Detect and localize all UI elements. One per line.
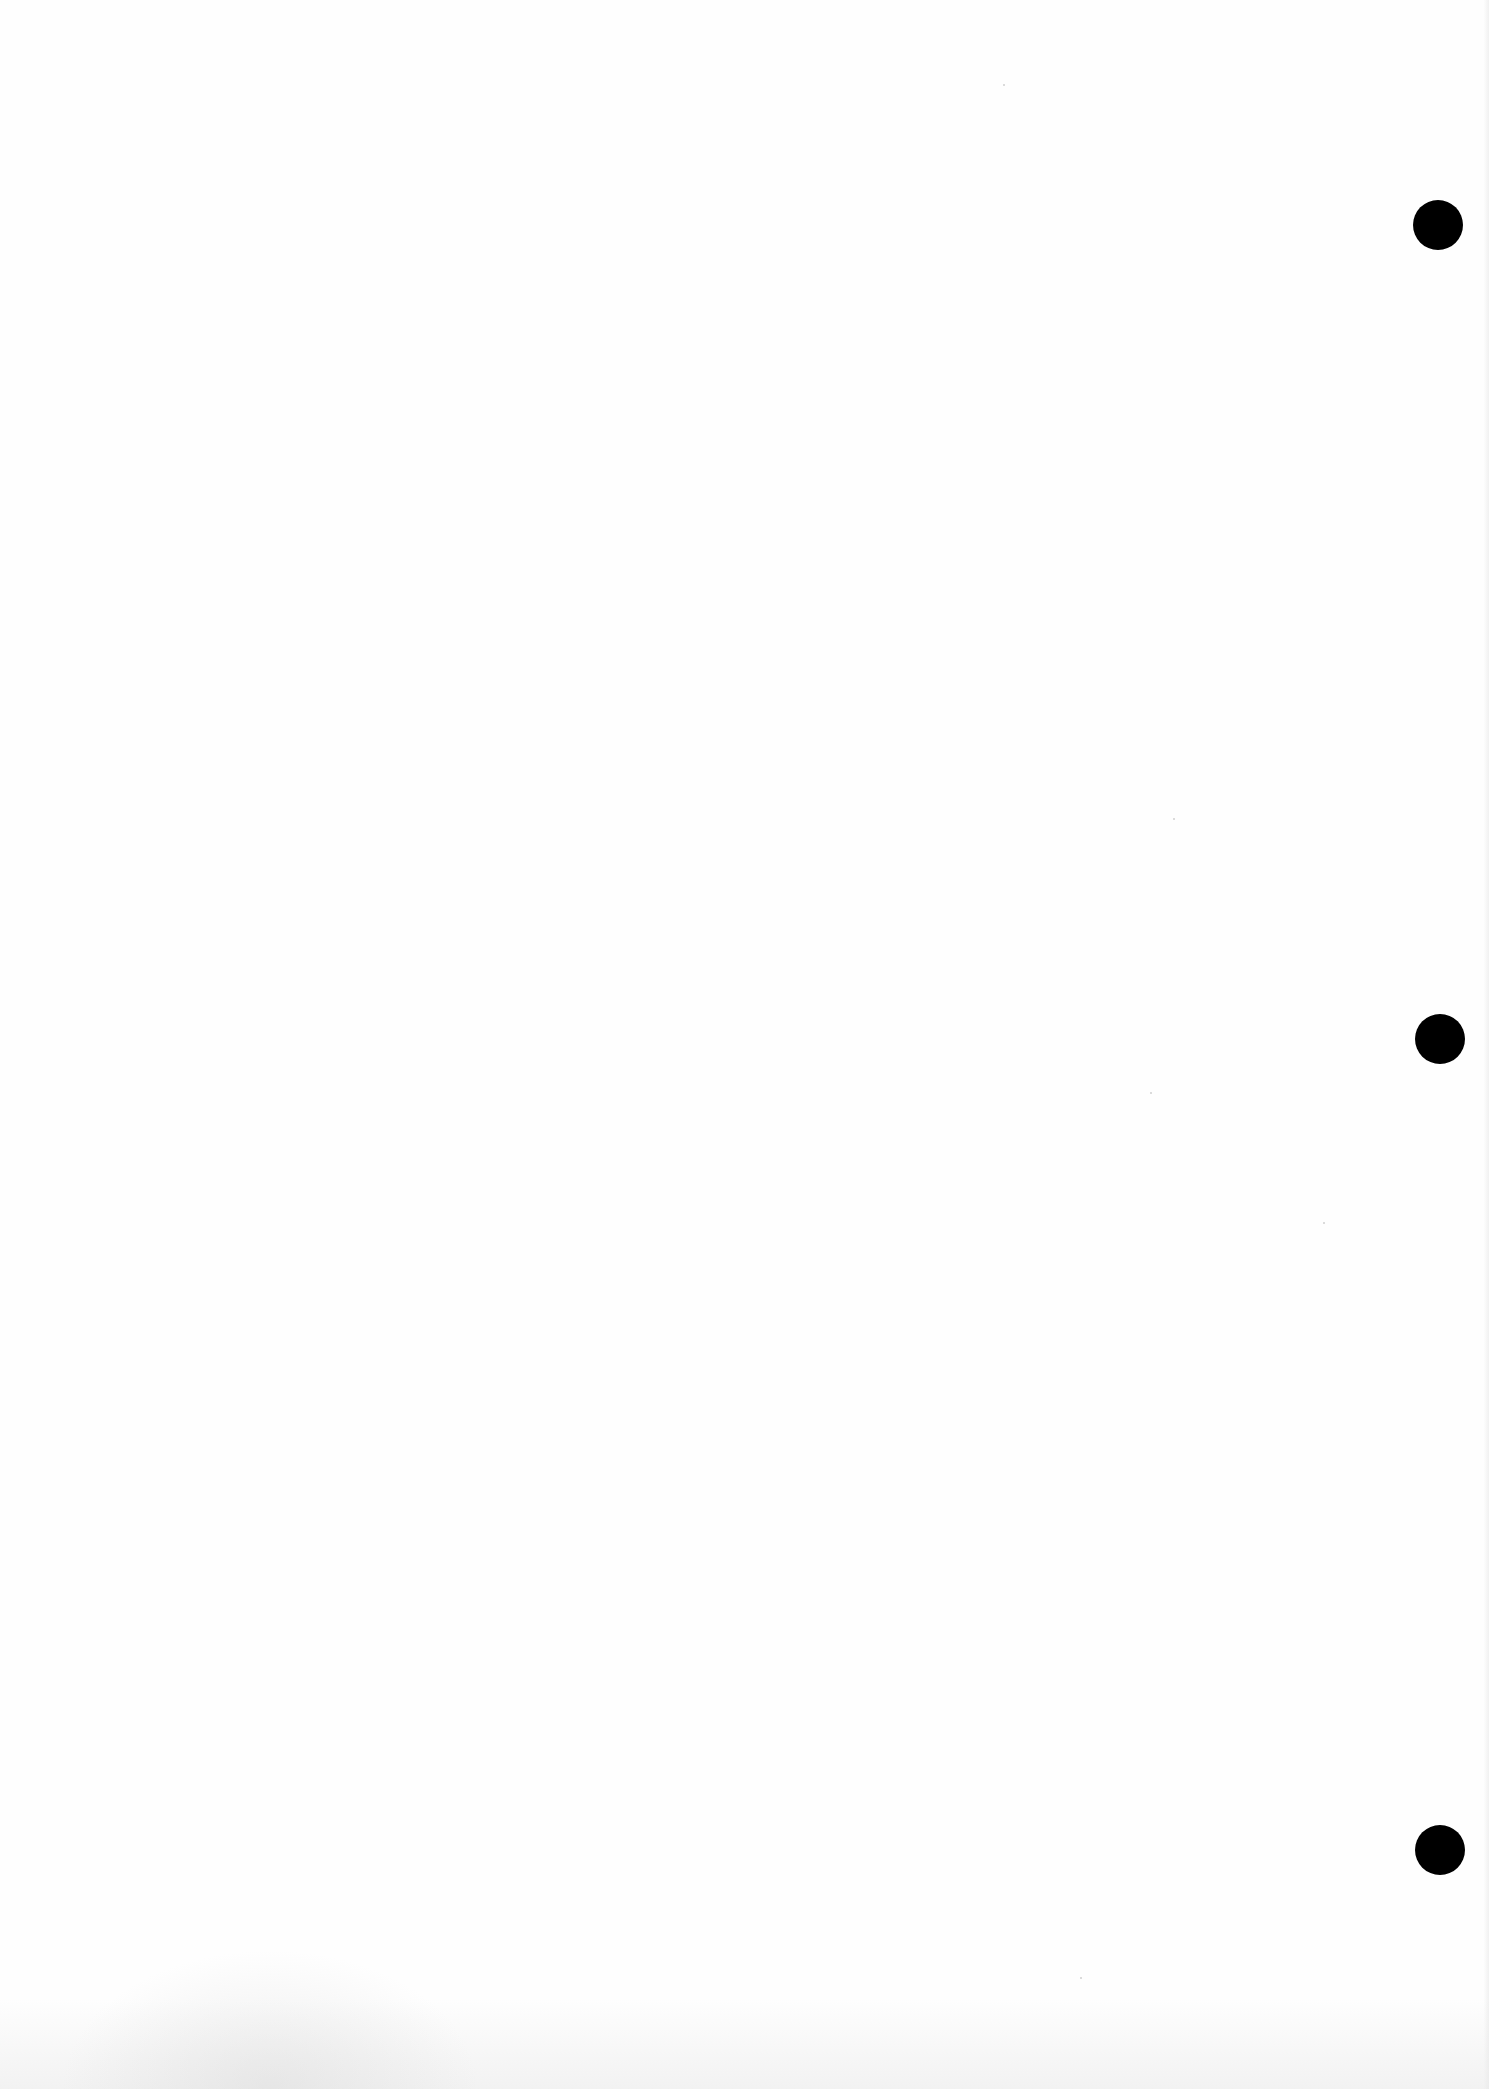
punch-hole-icon	[1415, 1014, 1465, 1064]
scan-edge-shadow-right	[1483, 0, 1489, 2089]
dust-speck	[1003, 84, 1005, 86]
dust-speck	[1173, 818, 1175, 820]
dust-speck	[1150, 1092, 1152, 1094]
punch-hole-icon	[1415, 1825, 1465, 1875]
punch-hole-icon	[1413, 200, 1463, 250]
dust-speck	[1323, 1222, 1325, 1224]
blank-page	[0, 0, 1489, 2089]
dust-speck	[1080, 1977, 1082, 1979]
scan-smudge	[60, 1949, 480, 2089]
